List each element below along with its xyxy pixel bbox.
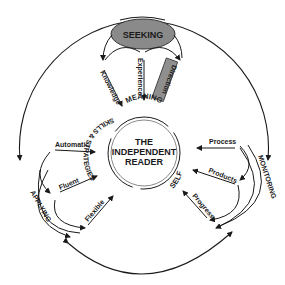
skills-strategies-label: SKILLS & STRATEGIES xyxy=(82,117,115,182)
applying-label: APPLYING xyxy=(29,189,53,223)
fluent-label: Fluent xyxy=(58,176,81,191)
svg-text:READER: READER xyxy=(125,157,164,167)
svg-text:THE: THE xyxy=(135,137,153,147)
monitoring-label: MONITORING xyxy=(257,154,278,200)
experience-label: Experience xyxy=(136,58,144,95)
center-title: THE INDEPENDENT READER xyxy=(112,137,177,167)
flexible-label: Flexible xyxy=(83,198,105,223)
bottom-cycle-arrow xyxy=(68,232,232,274)
applying-cluster xyxy=(38,152,85,237)
seeking-hub: SEEKING xyxy=(103,19,182,60)
svg-text:INDEPENDENT: INDEPENDENT xyxy=(112,147,177,157)
monitoring-cluster xyxy=(210,145,261,228)
products-label: Products xyxy=(208,166,239,184)
knowledge-label: Knowledge xyxy=(98,69,122,106)
progress-label: Progress xyxy=(190,192,216,220)
automatic-label: Automatic xyxy=(55,141,89,148)
knowledge-arrow: Knowledge xyxy=(98,69,122,106)
seeking-label: SEEKING xyxy=(123,30,164,40)
independent-reader-diagram: SEEKING Knowledge Experience Direction M… xyxy=(0,0,285,285)
process-label: Process xyxy=(209,138,236,145)
